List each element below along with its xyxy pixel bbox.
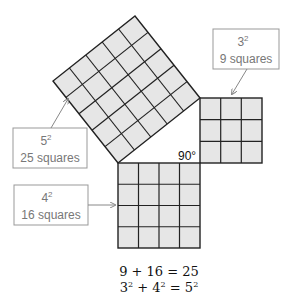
arrow-to-5x5 [51, 99, 68, 128]
svg-text:9 squares: 9 squares [220, 52, 273, 66]
label-box-3-squared: 32 9 squares [213, 29, 279, 94]
pythagorean-diagram: 90° 52 25 squares 32 9 squares 42 16 squ… [0, 0, 290, 296]
equation-squares: 32 + 42 = 52 [120, 280, 198, 295]
svg-text:16 squares: 16 squares [21, 208, 80, 222]
right-angle-label: 90° [178, 149, 196, 163]
square-4x4 [118, 163, 200, 248]
arrow-to-3x3 [232, 69, 247, 94]
svg-text:25 squares: 25 squares [20, 151, 79, 165]
equation-sum: 9 + 16 = 25 [119, 264, 199, 279]
square-3x3 [200, 98, 262, 163]
label-box-4-squared: 42 16 squares [14, 185, 115, 225]
